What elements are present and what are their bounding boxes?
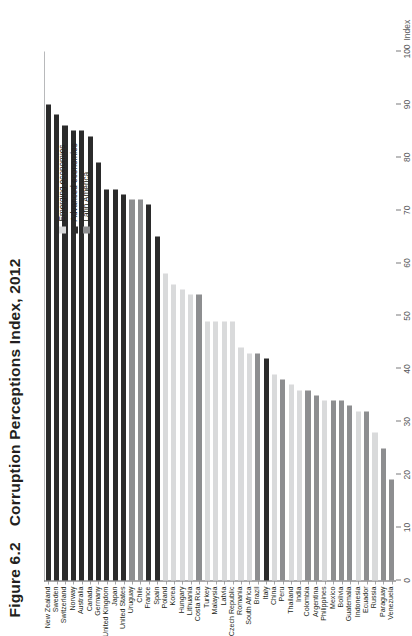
bar (155, 236, 160, 580)
category-label: Latvia (221, 586, 228, 605)
category-label: United States (120, 586, 127, 629)
legend-swatch-emg (59, 226, 66, 233)
bar (347, 405, 352, 580)
legend-swatch-lat (83, 226, 90, 233)
category-label: Turkey (204, 586, 211, 607)
category-label: Hungary (179, 586, 186, 613)
axis-title: Index (402, 19, 412, 40)
category-label: Chile (137, 586, 144, 602)
legend-item: Advanced economies (70, 143, 79, 233)
axis-tick (396, 473, 401, 474)
axis-tick-label: 70 (402, 205, 412, 214)
axis-tick (396, 209, 401, 210)
legend: Emerging economiesAdvanced economiesLati… (58, 143, 91, 233)
bar (356, 411, 361, 580)
axis-tick-label: 20 (402, 469, 412, 478)
axis-tick-label: 90 (402, 99, 412, 108)
plot-area (44, 51, 396, 581)
category-label: Malaysia (212, 586, 219, 614)
axis-tick-label: 80 (402, 152, 412, 161)
bar (289, 384, 294, 580)
bar (121, 194, 126, 580)
bar (138, 199, 143, 580)
bar (305, 390, 310, 580)
category-label: France (145, 586, 152, 608)
axis-tick-label: 0 (402, 578, 412, 583)
bar (280, 379, 285, 580)
category-label: New Zealand (45, 586, 52, 628)
category-label: Thailand (288, 586, 295, 613)
category-label: Russia (371, 586, 378, 608)
legend-item: Emerging economies (58, 143, 67, 233)
axis-tick (396, 50, 401, 51)
bar (46, 104, 51, 580)
bar (180, 289, 185, 580)
bar (163, 273, 168, 580)
category-label: Norway (70, 586, 77, 610)
figure-title: Corruption Perceptions Index, 2012 (6, 258, 24, 526)
axis-tick-label: 100 (402, 44, 412, 58)
axis-tick-label: 40 (402, 364, 412, 373)
category-label: Paraguay (380, 586, 387, 616)
category-label: Bolivia (338, 586, 345, 607)
bar (372, 432, 377, 580)
bar (339, 400, 344, 580)
legend-label: Latin America (82, 171, 91, 221)
category-label: Colombia (304, 586, 311, 616)
category-label: Uruguay (128, 586, 135, 613)
category-label: Venezuela (388, 586, 395, 619)
bar (322, 400, 327, 580)
bar (188, 294, 193, 580)
axis-tick-label: 50 (402, 311, 412, 320)
axis-tick (396, 262, 401, 263)
category-label: Italy (263, 586, 270, 599)
bar (222, 321, 227, 580)
bar (171, 284, 176, 580)
axis-tick (396, 579, 401, 580)
legend-swatch-adv (71, 226, 78, 233)
category-label: South Africa (246, 586, 253, 624)
bar (255, 353, 260, 580)
category-label: Guatemala (346, 586, 353, 621)
bar (264, 358, 269, 580)
axis-tick (396, 156, 401, 157)
axis-tick-label: 30 (402, 417, 412, 426)
bar (205, 321, 210, 580)
bar (389, 480, 394, 581)
category-label: Peru (279, 586, 286, 601)
bar (331, 400, 336, 580)
bar-series (44, 51, 396, 580)
bar (96, 162, 101, 580)
category-label: Poland (162, 586, 169, 608)
bar (364, 411, 369, 580)
category-label: Romania (237, 586, 244, 614)
category-label: Canada (87, 586, 94, 611)
bar (213, 321, 218, 580)
category-label: Germany (95, 586, 102, 615)
category-label: Indonesia (355, 586, 362, 617)
category-label: Japan (112, 586, 119, 605)
category-label: China (271, 586, 278, 605)
bar (146, 204, 151, 580)
category-label: Argentina (313, 586, 320, 616)
bar (272, 374, 277, 580)
bar (104, 189, 109, 580)
bar (230, 321, 235, 580)
bar (314, 395, 319, 580)
bar (381, 448, 386, 580)
category-label: Brazil (254, 586, 261, 604)
figure-number: Figure 6.2 (6, 542, 24, 617)
bar (247, 353, 252, 580)
category-label: Czech Republic (229, 586, 236, 636)
axis-tick (396, 420, 401, 421)
category-axis: New ZealandSwedenSwitzerlandNorwayAustra… (44, 581, 396, 625)
axis-tick-label: 60 (402, 258, 412, 267)
category-label: Korea (170, 586, 177, 605)
category-label: Spain (154, 586, 161, 604)
category-label: Philippines (321, 586, 328, 620)
category-label: Switzerland (61, 586, 68, 623)
figure-heading: Figure 6.2 Corruption Perceptions Index,… (6, 258, 24, 617)
legend-label: Advanced economies (70, 143, 79, 221)
bar (129, 199, 134, 580)
